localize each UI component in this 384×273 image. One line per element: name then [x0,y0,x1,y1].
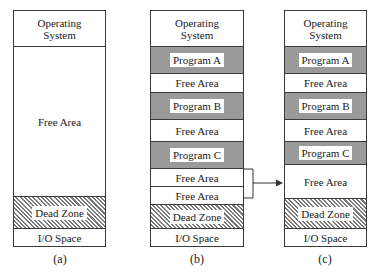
memory-map-b: Operating System Program A Free Area Pro… [150,10,244,247]
free-area-segment: Free Area [151,168,243,186]
dead-zone-label: Dead Zone [170,210,225,224]
free-area-segment: Free Area [151,119,243,141]
dead-zone-label: Dead Zone [32,206,87,220]
io-space-label: I/O Space [36,232,84,244]
free-area-segment: Free Area [151,186,243,204]
program-b-segment: Program B [285,92,366,119]
program-b-label: Program B [170,99,224,113]
caption-b: (b) [182,252,212,267]
free-area-label: Free Area [173,125,220,137]
free-area-segment: Free Area [14,46,105,196]
os-label-line1: Operating [302,17,350,29]
program-a-segment: Program A [285,46,366,73]
io-space-label: I/O Space [173,232,221,244]
program-b-label: Program B [299,99,353,113]
os-segment: Operating System [14,11,105,46]
os-label-line2: System [307,29,343,41]
program-c-label: Program C [299,146,353,160]
os-label-line2: System [179,29,215,41]
free-area-label: Free Area [173,172,220,184]
os-label-line2: System [41,29,77,41]
io-space-segment: I/O Space [151,228,243,246]
free-area-label: Free Area [36,116,83,128]
free-area-label: Free Area [173,190,220,202]
io-space-segment: I/O Space [285,228,366,246]
dead-zone-segment: Dead Zone [285,198,366,228]
caption-a: (a) [45,252,75,267]
os-segment: Operating System [151,11,243,46]
os-label-line1: Operating [36,17,84,29]
io-space-segment: I/O Space [14,228,105,246]
program-c-segment: Program C [151,141,243,168]
free-area-label: Free Area [173,77,220,89]
program-c-segment: Program C [285,141,366,164]
program-b-segment: Program B [151,92,243,119]
memory-map-c: Operating System Program A Free Area Pro… [284,10,367,247]
program-a-label: Program A [299,53,353,67]
compaction-arrow-icon [240,168,285,208]
program-a-label: Program A [170,53,224,67]
free-area-label: Free Area [302,125,349,137]
merged-free-area-segment: Free Area [285,164,366,198]
memory-map-a: Operating System Free Area Dead Zone I/O… [13,10,106,247]
free-area-label: Free Area [302,176,349,188]
os-segment: Operating System [285,11,366,46]
free-area-segment: Free Area [285,119,366,141]
free-area-label: Free Area [302,77,349,89]
program-c-label: Program C [170,148,224,162]
dead-zone-segment: Dead Zone [14,196,105,228]
os-label-line1: Operating [173,17,221,29]
caption-c: (c) [310,252,340,267]
dead-zone-label: Dead Zone [298,207,353,221]
free-area-segment: Free Area [285,73,366,92]
program-a-segment: Program A [151,46,243,73]
io-space-label: I/O Space [302,232,350,244]
free-area-segment: Free Area [151,73,243,92]
dead-zone-segment: Dead Zone [151,204,243,228]
